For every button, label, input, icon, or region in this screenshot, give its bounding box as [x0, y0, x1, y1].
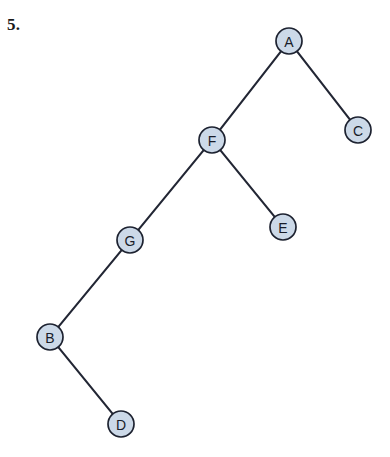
tree-edge-a-c	[296, 50, 351, 121]
node-label-a: A	[284, 34, 294, 50]
node-label-g: G	[125, 233, 136, 249]
tree-edge-a-f	[219, 50, 282, 131]
tree-edge-g-b	[57, 249, 122, 328]
tree-node-d[interactable]: D	[108, 411, 134, 437]
tree-node-b[interactable]: B	[37, 324, 63, 350]
tree-edge-layer	[57, 50, 351, 415]
tree-edge-f-g	[137, 149, 204, 231]
node-label-e: E	[278, 220, 287, 236]
tree-edge-f-e	[219, 149, 275, 218]
tree-node-layer: ACFEGBD	[37, 28, 371, 437]
node-label-d: D	[116, 417, 126, 433]
tree-edge-b-d	[57, 346, 113, 415]
tree-node-f[interactable]: F	[199, 127, 225, 153]
node-label-b: B	[45, 330, 54, 346]
page-canvas: 5. ACFEGBD	[0, 0, 390, 457]
tree-node-g[interactable]: G	[117, 227, 143, 253]
tree-node-e[interactable]: E	[270, 214, 296, 240]
tree-node-c[interactable]: C	[345, 117, 371, 143]
node-label-c: C	[353, 123, 363, 139]
tree-node-a[interactable]: A	[276, 28, 302, 54]
binary-tree-diagram: ACFEGBD	[0, 0, 390, 457]
node-label-f: F	[208, 133, 217, 149]
